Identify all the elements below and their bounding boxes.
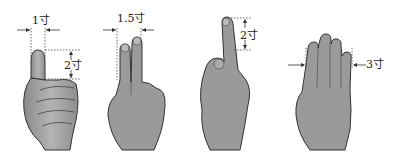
two-finger-width-label: 1.5寸 (117, 13, 146, 24)
thumb-width-label: 1寸 (32, 15, 50, 26)
four-finger-width-label: 3寸 (366, 59, 384, 70)
four-finger-hand-illustration (280, 0, 398, 164)
panel-middle-finger: 2寸 (190, 0, 280, 164)
panel-two-fingers: 1.5寸 (100, 0, 200, 164)
thumb-length-label: 2寸 (64, 60, 82, 71)
middle-finger-hand-illustration (190, 0, 280, 164)
middle-finger-length-label: 2寸 (240, 30, 258, 41)
panel-thumb: 1寸 2寸 (0, 0, 100, 164)
two-finger-hand-illustration (100, 0, 200, 164)
thumb-hand-illustration (0, 0, 100, 164)
panel-four-fingers: 3寸 (280, 0, 398, 164)
